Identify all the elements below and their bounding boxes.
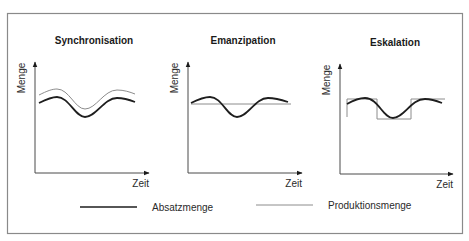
y-axis-label: Menge (16, 62, 27, 93)
produktionsmenge-line (347, 99, 445, 119)
legend: Absatzmenge Produktionsmenge (80, 200, 412, 213)
absatzmenge-line (39, 97, 135, 117)
legend-label-produktionsmenge: Produktionsmenge (328, 200, 412, 211)
chart-emanzipation: Emanzipation Menge Zeit (169, 35, 302, 189)
y-axis-label: Menge (169, 62, 180, 93)
x-axis-label: Zeit (436, 179, 453, 190)
absatzmenge-line (347, 98, 442, 118)
chart-title: Synchronisation (55, 35, 133, 46)
chart-title: Eskalation (370, 37, 420, 48)
absatzmenge-line (191, 97, 288, 117)
legend-label-absatzmenge: Absatzmenge (152, 202, 214, 213)
x-axis-label: Zeit (285, 178, 302, 189)
three-chart-diagram: Synchronisation Menge Zeit Emanzipation … (0, 0, 469, 241)
chart-synchronisation: Synchronisation Menge Zeit (16, 35, 149, 189)
chart-eskalation: Eskalation Menge Zeit (321, 37, 453, 190)
chart-title: Emanzipation (210, 35, 275, 46)
x-axis-label: Zeit (132, 178, 149, 189)
y-axis-label: Menge (321, 64, 332, 95)
